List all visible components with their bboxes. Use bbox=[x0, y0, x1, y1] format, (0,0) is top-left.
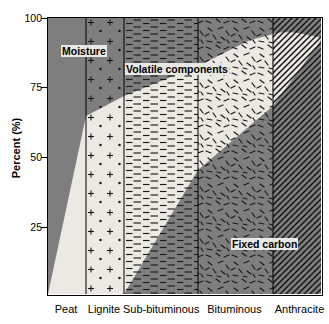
texture-anthracite bbox=[273, 18, 321, 294]
region-label-fixed-carbon: Fixed carbon bbox=[231, 238, 298, 250]
chart-svg bbox=[48, 18, 321, 294]
texture-bituminous bbox=[198, 18, 273, 294]
y-tick-label-75: 75 bbox=[16, 82, 42, 92]
region-label-volatile-components: Volatile components bbox=[125, 63, 229, 75]
y-tick-label-100: 100 bbox=[16, 13, 42, 23]
x-label-lignite: Lignite bbox=[82, 303, 126, 316]
x-label-bituminous: Bituminous bbox=[197, 303, 272, 316]
region-label-moisture: Moisture bbox=[61, 45, 107, 57]
y-tick-label-25: 25 bbox=[16, 222, 42, 232]
x-label-peat: Peat bbox=[47, 303, 85, 316]
coal-rank-composition-chart: Percent (%) 100 75 50 25 bbox=[0, 0, 329, 324]
texture-lignite bbox=[86, 18, 124, 294]
x-label-anthracite: Anthracite bbox=[270, 303, 329, 316]
x-label-sub-bituminous: Sub-bituminous bbox=[123, 303, 197, 316]
texture-sub-bituminous bbox=[124, 18, 198, 294]
plot-area bbox=[47, 17, 323, 296]
y-tick-label-50: 50 bbox=[16, 152, 42, 162]
y-axis-ticks: 100 75 50 25 bbox=[14, 0, 42, 324]
